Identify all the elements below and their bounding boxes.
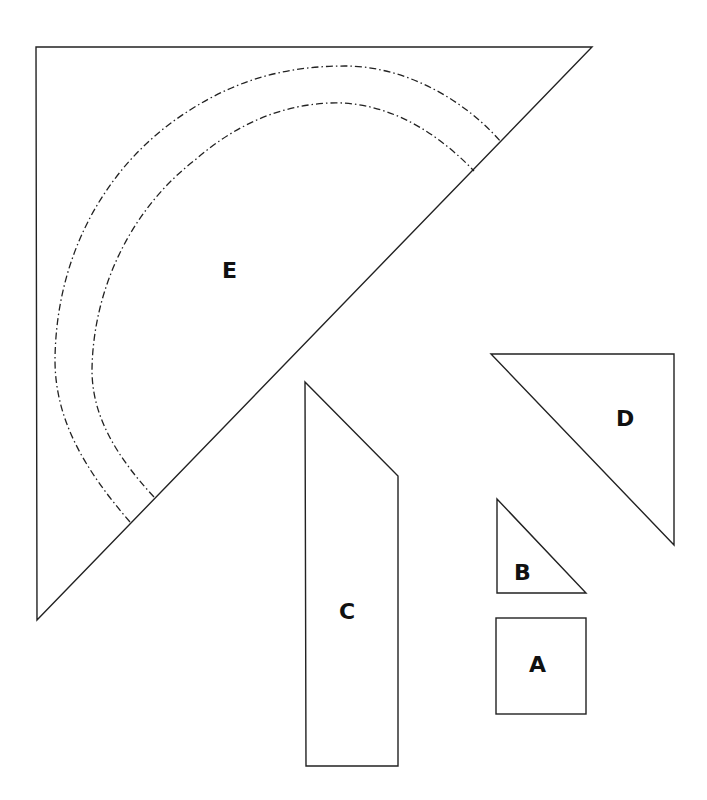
- piece-e-inner-arc: [92, 103, 474, 497]
- piece-e: E: [36, 47, 592, 620]
- piece-b-outline: [497, 499, 586, 593]
- piece-c: C: [305, 382, 398, 766]
- piece-a: A: [496, 618, 586, 714]
- piece-e-outline: [36, 47, 592, 620]
- diagram-canvas: E C D B A: [0, 0, 707, 800]
- piece-a-label: A: [529, 652, 546, 677]
- piece-d-label: D: [616, 406, 634, 431]
- piece-b: B: [497, 499, 586, 593]
- piece-b-label: B: [514, 560, 531, 585]
- piece-d-outline: [491, 354, 674, 545]
- piece-c-outline: [305, 382, 398, 766]
- piece-d: D: [491, 354, 674, 545]
- piece-e-label: E: [222, 258, 237, 283]
- piece-e-outer-arc: [55, 66, 501, 522]
- piece-c-label: C: [339, 599, 355, 624]
